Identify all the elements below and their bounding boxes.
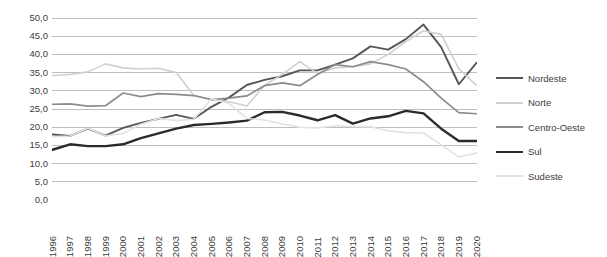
legend-item-centro-oeste[interactable]: Centro-Oeste <box>496 115 607 140</box>
y-axis-tick-label: 45,0 <box>8 31 48 41</box>
y-axis-tick-label: 0,0 <box>8 195 48 205</box>
y-axis: 50,045,040,035,030,025,020,015,010,05,00… <box>0 0 48 257</box>
y-axis-tick-label: 15,0 <box>8 141 48 151</box>
legend-line-swatch <box>496 175 523 177</box>
x-axis-tick-label: 2006 <box>224 236 234 257</box>
x-axis-tick-label: 1998 <box>83 236 93 257</box>
x-axis-tick-label: 2009 <box>277 236 287 257</box>
plot-area <box>52 18 477 200</box>
y-axis-tick-label: 25,0 <box>8 104 48 114</box>
series-line-norte <box>53 31 477 106</box>
gridlines <box>52 18 477 200</box>
legend-item-norte[interactable]: Norte <box>496 91 607 116</box>
x-axis-tick-label: 1999 <box>101 236 111 257</box>
x-axis-tick-label: 2004 <box>189 236 199 257</box>
legend-item-sul[interactable]: Sul <box>496 140 607 165</box>
x-axis-tick-label: 2018 <box>436 236 446 257</box>
x-axis-tick-label: 2011 <box>313 237 323 257</box>
x-axis-tick-label: 2002 <box>154 236 164 257</box>
x-axis-tick-label: 2014 <box>366 236 376 257</box>
x-axis-tick-label: 2020 <box>472 236 482 257</box>
series-line-sudeste <box>53 99 477 157</box>
x-axis-tick-label: 2003 <box>171 236 181 257</box>
x-axis-tick-label: 1996 <box>48 236 58 257</box>
legend-item-sudeste[interactable]: Sudeste <box>496 164 607 189</box>
legend-item-label: Sudeste <box>528 172 563 182</box>
legend-item-label: Centro-Oeste <box>528 123 585 133</box>
legend-line-swatch <box>496 102 523 104</box>
x-axis-tick-label: 1997 <box>65 236 75 257</box>
x-axis-tick-label: 2010 <box>295 236 305 257</box>
legend-item-nordeste[interactable]: Nordeste <box>496 66 607 91</box>
x-axis-tick-label: 2000 <box>118 236 128 257</box>
x-axis: 1996199719981999200020012002200320042005… <box>52 202 477 257</box>
y-axis-tick-label: 40,0 <box>8 50 48 60</box>
legend-item-label: Sul <box>528 147 542 157</box>
x-axis-tick-label: 2017 <box>419 236 429 257</box>
x-axis-tick-label: 2007 <box>242 236 252 257</box>
x-axis-tick-label: 2008 <box>260 236 270 257</box>
x-axis-tick-label: 2015 <box>383 236 393 257</box>
legend-item-label: Norte <box>528 98 551 108</box>
series-line-centro-oeste <box>53 62 477 114</box>
x-axis-tick-label: 2013 <box>348 236 358 257</box>
y-axis-tick-label: 20,0 <box>8 122 48 132</box>
x-axis-tick-label: 2019 <box>454 236 464 257</box>
chart-legend: NordesteNorteCentro-OesteSulSudeste <box>496 66 607 189</box>
y-axis-tick-label: 35,0 <box>8 68 48 78</box>
legend-line-swatch <box>496 126 523 128</box>
plot-svg <box>52 18 477 200</box>
y-axis-tick-label: 5,0 <box>8 177 48 187</box>
y-axis-tick-label: 50,0 <box>8 13 48 23</box>
legend-item-label: Nordeste <box>528 74 567 84</box>
y-axis-tick-label: 30,0 <box>8 86 48 96</box>
x-axis-tick-label: 2016 <box>401 236 411 257</box>
line-chart: 50,045,040,035,030,025,020,015,010,05,00… <box>0 0 607 257</box>
legend-line-swatch <box>496 77 523 79</box>
y-axis-tick-label: 10,0 <box>8 159 48 169</box>
x-axis-tick-label: 2001 <box>136 236 146 257</box>
legend-line-swatch <box>496 151 523 153</box>
x-axis-tick-label: 2012 <box>330 236 340 257</box>
x-axis-tick-label: 2005 <box>207 236 217 257</box>
